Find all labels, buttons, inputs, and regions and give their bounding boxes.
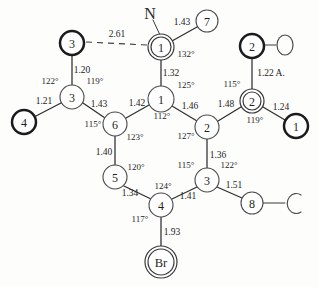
bond-c2-c2right: [218, 107, 241, 121]
bond-angle-ang-c2r-l: 115°: [224, 79, 241, 89]
atom-node-a-n7[interactable]: 7: [196, 10, 218, 32]
atom-node-a-o2t[interactable]: 2: [240, 34, 264, 58]
atom-label: 1: [158, 41, 164, 55]
bond-angle-ang-c5-r: 120°: [127, 162, 145, 172]
atom-node-a-c3l[interactable]: 3: [60, 85, 84, 109]
atom-label: 2: [249, 40, 255, 54]
bond-length-len-c3l-c6: 1.43: [91, 99, 108, 109]
bond-angle-ang-c1-r: 125°: [177, 80, 195, 90]
atom-node-a-c2[interactable]: 2: [195, 115, 219, 139]
atom-label: 1: [158, 93, 164, 107]
bond-length-len-c5-c4: 1.34: [122, 188, 139, 198]
atom-label: 6: [112, 118, 118, 132]
atom-node-a-c1[interactable]: 1: [148, 86, 174, 112]
atom-node-a-n1[interactable]: 1: [148, 34, 174, 60]
atom-label: 3: [204, 174, 210, 188]
atom-node-a-c6[interactable]: 6: [103, 112, 127, 136]
atom-node-a-o1r[interactable]: 1: [284, 114, 308, 138]
bond-angle-ang-c3l-r: 119°: [87, 76, 104, 86]
atom-label: 5: [112, 171, 118, 185]
atom-label: 1: [293, 120, 299, 134]
atom-label: 8: [249, 197, 255, 211]
atom-label: 3: [69, 37, 75, 51]
bond-n1-n7: [172, 27, 197, 41]
atom-node-a-br[interactable]: Br: [145, 246, 177, 278]
atom-node-a-c2r[interactable]: 2: [240, 89, 264, 113]
atom-label: Br: [155, 256, 168, 270]
bond-angle-ang-c3r-l: 115°: [178, 160, 195, 170]
atom-node-a-o3t[interactable]: 3: [60, 31, 84, 55]
bond-length-len-c2-c2r: 1.48: [218, 99, 235, 109]
atom-label: 2: [204, 121, 210, 135]
bond-length-len-o3t-c3l: 1.20: [74, 65, 91, 75]
molecular-structure-figure: 173346122213854Br N 1.432.611.321.201.21…: [0, 0, 319, 287]
oxygen-o-glyph: [277, 35, 293, 55]
atom-label: 2: [249, 95, 255, 109]
atom-node-a-o4[interactable]: 4: [12, 110, 36, 134]
bond-angle-ang-c1-b: 112°: [154, 111, 171, 121]
bond-length-len-n1-n7: 1.43: [174, 17, 191, 27]
bond-angle-ang-c6-l: 115°: [85, 119, 102, 129]
bond-angle-ang-c4-t: 124°: [154, 181, 172, 191]
bond-length-len-c3r-c8: 1.51: [226, 180, 243, 190]
bond-length-len-c1-c2: 1.46: [182, 101, 199, 111]
bond-length-len-c4-br: 1.93: [164, 227, 181, 237]
atom-label: 4: [21, 116, 27, 130]
bond-angle-ang-c6-r: 123°: [126, 132, 144, 142]
atom-node-a-c8[interactable]: 8: [241, 192, 263, 214]
atom-label: 4: [158, 199, 164, 213]
hydrogen-bond-dashed: [86, 42, 147, 45]
atom-label: 7: [204, 15, 210, 29]
bond-length-len-c2r-o2t: 1.22 A.: [257, 68, 285, 78]
bond-length-len-c3l-o4: 1.21: [36, 96, 53, 106]
carbon-c-glyph: [287, 194, 301, 214]
bond-length-len-c4-c3r: 1.41: [180, 191, 197, 201]
bond-n-label-stub: [153, 20, 160, 35]
bond-length-len-c2-c3r: 1.36: [210, 150, 227, 160]
element-label-lbl-n: N: [144, 5, 156, 22]
atom-node-a-c4[interactable]: 4: [149, 193, 173, 217]
bond-angle-ang-c2-l: 127°: [177, 131, 195, 141]
atom-label: 3: [69, 91, 75, 105]
atom-node-a-c5[interactable]: 5: [103, 165, 127, 189]
bond-angle-ang-c3r-r: 122°: [220, 160, 238, 170]
bond-angle-ang-c3l-l: 122°: [41, 76, 59, 86]
atom-nodes: 173346122213854Br: [12, 10, 308, 278]
bond-length-len-n1-c1: 1.32: [163, 68, 180, 78]
bond-angle-ang-c2r-b: 119°: [247, 115, 264, 125]
bond-length-len-c6-c1: 1.42: [129, 98, 146, 108]
bond-length-len-c6-c5: 1.40: [96, 147, 113, 157]
bond-length-len-c2r-o1r: 1.24: [273, 102, 290, 112]
bond-angle-ang-c4-b: 117°: [132, 214, 149, 224]
bond-length-len-hbond: 2.61: [109, 29, 126, 39]
bond-angle-ang-n1: 132°: [177, 49, 195, 59]
structure-canvas: 173346122213854Br N 1.432.611.321.201.21…: [0, 0, 319, 287]
atom-node-a-c3r[interactable]: 3: [195, 168, 219, 192]
element-letter-labels: N: [144, 5, 156, 22]
